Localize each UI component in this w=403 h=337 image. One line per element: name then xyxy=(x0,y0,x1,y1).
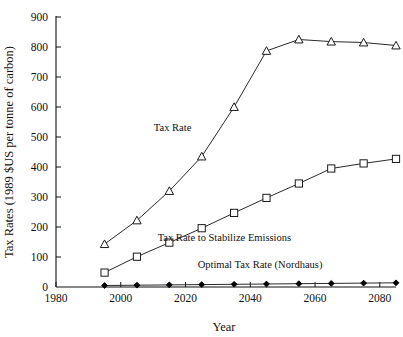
y-tick-label: 400 xyxy=(31,161,49,173)
series-1 xyxy=(100,35,400,247)
data-point-marker xyxy=(296,281,302,287)
x-tick-label: 2000 xyxy=(109,292,132,304)
tax-rates-line-chart: 0100200300400500600700800900 19802000202… xyxy=(0,0,403,337)
y-tick-label: 500 xyxy=(31,131,49,143)
x-axis-tick-labels: 198020002020204020602080 xyxy=(45,292,392,304)
series-label-2: Tax Rate to Stabilize Emissions xyxy=(158,232,291,243)
data-point-marker xyxy=(231,281,237,287)
data-point-marker xyxy=(100,240,108,248)
series-label-3: Optimal Tax Rate (Nordhaus) xyxy=(198,259,323,271)
x-tick-label: 1980 xyxy=(45,292,68,304)
data-point-marker xyxy=(262,47,270,55)
data-point-marker xyxy=(263,194,270,201)
x-tick-label: 2040 xyxy=(239,292,262,304)
data-point-marker xyxy=(392,155,399,162)
series-label-1: Tax Rate xyxy=(154,122,192,133)
y-tick-label: 900 xyxy=(31,11,49,23)
data-point-marker xyxy=(198,152,206,160)
data-point-marker xyxy=(360,160,367,167)
x-axis-title: Year xyxy=(212,320,236,334)
data-point-marker xyxy=(230,209,237,216)
series-2 xyxy=(101,155,400,276)
series-line xyxy=(105,159,396,273)
series-annotation-labels: Tax RateTax Rate to Stabilize EmissionsO… xyxy=(154,122,323,271)
chart-container: 0100200300400500600700800900 19802000202… xyxy=(0,0,403,337)
data-point-marker xyxy=(295,180,302,187)
data-point-marker xyxy=(101,269,108,276)
data-point-marker xyxy=(393,280,399,286)
x-tick-label: 2060 xyxy=(304,292,327,304)
y-tick-label: 800 xyxy=(31,41,49,53)
y-axis-tick-labels: 0100200300400500600700800900 xyxy=(31,11,49,293)
data-point-marker xyxy=(328,281,334,287)
y-tick-label: 700 xyxy=(31,71,49,83)
series-line xyxy=(105,40,396,245)
data-series-group xyxy=(100,35,400,288)
data-point-marker xyxy=(361,280,367,286)
y-tick-label: 600 xyxy=(31,101,49,113)
data-point-marker xyxy=(295,35,303,43)
y-tick-label: 100 xyxy=(31,251,49,263)
y-axis-title: Tax Rates (1989 $US per tonne of carbon) xyxy=(2,46,16,258)
y-tick-label: 300 xyxy=(31,191,49,203)
x-tick-label: 2020 xyxy=(174,292,197,304)
x-tick-label: 2080 xyxy=(368,292,391,304)
data-point-marker xyxy=(230,103,238,111)
y-tick-label: 200 xyxy=(31,221,49,233)
data-point-marker xyxy=(264,281,270,287)
data-point-marker xyxy=(328,165,335,172)
data-point-marker xyxy=(133,253,140,260)
